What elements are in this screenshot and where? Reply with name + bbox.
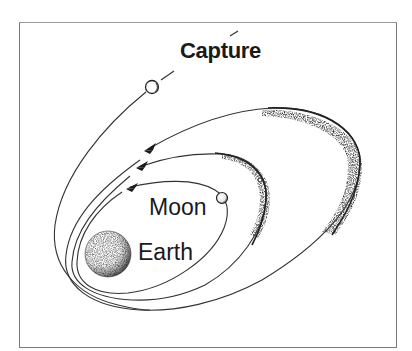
moon-label: Moon — [149, 196, 207, 219]
inner-orbit-arrow-icon — [126, 183, 138, 192]
orbit-gap-2 — [132, 172, 136, 175]
small-body-icon — [258, 178, 262, 182]
middle-orbit-stipple — [222, 153, 270, 238]
capture-label: Capture — [180, 40, 261, 62]
earth-label: Earth — [138, 241, 193, 264]
moon-icon — [217, 193, 228, 204]
earth-icon — [85, 231, 131, 277]
middle-orbit-arrow-icon — [136, 161, 148, 171]
capture-trajectory-dash-2 — [230, 31, 238, 36]
capture-trajectory-path — [54, 92, 150, 310]
capture-trajectory-dash-1 — [161, 71, 174, 80]
middle-orbit-path — [72, 154, 266, 300]
incoming-body-icon — [146, 81, 159, 94]
orbit-gap-1 — [140, 154, 144, 157]
outer-orbit-stipple — [262, 110, 362, 235]
outer-orbit-arrow-icon — [144, 143, 156, 154]
